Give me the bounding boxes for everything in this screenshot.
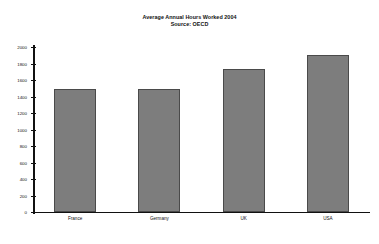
y-axis-tick-label: 200 [20,193,27,198]
chart-title-block: Average Annual Hours Worked 2004 Source:… [0,14,379,28]
bar [223,69,265,212]
bar [138,89,180,212]
bar-chart: Average Annual Hours Worked 2004 Source:… [0,0,379,244]
bar [54,89,96,212]
y-axis-tick-label: 600 [20,160,27,165]
y-axis-tick-label: 1800 [17,61,27,66]
x-axis-category-label: Germany [117,216,201,222]
x-axis-line [32,212,370,213]
y-axis-tick-labels: 2000180016001400120010008006004002000 [0,47,33,212]
x-axis-category-label: UK [202,216,286,222]
chart-subtitle-source: Source: OECD [0,21,379,28]
x-axis-category-label: France [33,216,117,222]
chart-title: Average Annual Hours Worked 2004 [0,14,379,21]
plot-area: 2000180016001400120010008006004002000 [33,47,370,212]
y-axis-tick-label: 0 [25,210,27,215]
y-axis-tick-label: 1000 [17,127,27,132]
y-axis-tick-label: 1600 [17,78,27,83]
y-axis-tick-label: 800 [20,144,27,149]
y-axis-tick [31,212,36,213]
bar [307,55,349,212]
y-axis-tick-label: 1400 [17,94,27,99]
y-axis-tick-label: 1200 [17,111,27,116]
x-axis-category-label: USA [286,216,370,222]
y-axis-tick-label: 2000 [17,45,27,50]
bars-layer [33,47,370,212]
y-axis-tick-label: 400 [20,177,27,182]
x-axis-category-labels: FranceGermanyUKUSA [33,216,370,228]
